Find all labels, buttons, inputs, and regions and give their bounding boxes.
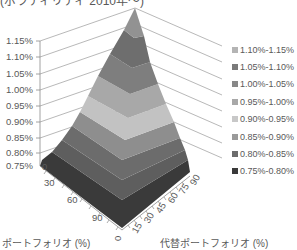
y-tick-90: 90 (92, 212, 103, 223)
z-tick-0.85: 0.85% (6, 132, 33, 143)
legend-item: 0.95%-1.00% (232, 93, 297, 110)
z-tick-0.95: 0.95% (6, 100, 33, 111)
legend-item: 1.05%-1.10% (232, 58, 297, 75)
legend-label: 1.00%-1.05% (240, 79, 294, 89)
legend-label: 0.80%-0.85% (240, 149, 294, 159)
legend-swatch (232, 116, 238, 122)
legend-item: 0.90%-0.95% (232, 111, 297, 128)
z-tick-1.15: 1.15% (6, 35, 33, 46)
y-tick-30: 30 (44, 177, 55, 188)
y-tick-60: 60 (67, 194, 78, 205)
x-tick-45: 45 (153, 200, 168, 215)
x-tick-90: 90 (187, 172, 202, 187)
legend-item: 1.10%-1.15% (232, 41, 297, 58)
z-tick-0.90: 0.90% (6, 116, 33, 127)
legend-swatch (232, 64, 238, 70)
z-axis-labels: 1.15% 1.10% 1.05% 1.00% 0.95% 0.90% 0.85… (6, 35, 33, 171)
z-tick-0.80: 0.80% (6, 147, 33, 158)
legend-label: 0.90%-0.95% (240, 114, 294, 124)
y-tick-0: 0 (42, 161, 47, 172)
axis-title-right: 代替ポートフォリオ (%) (160, 235, 268, 250)
legend: 1.10%-1.15% 1.05%-1.10% 1.00%-1.05% 0.95… (232, 41, 297, 180)
legend-swatch (232, 47, 238, 53)
z-tick-1.10: 1.10% (6, 51, 33, 62)
legend-label: 1.05%-1.10% (240, 62, 294, 72)
legend-item: 0.75%-0.80% (232, 163, 297, 180)
legend-label: 0.75%-0.80% (240, 166, 294, 176)
x-tick-0: 0 (112, 236, 123, 241)
z-tick-0.75: 0.75% (6, 160, 33, 171)
legend-item: 0.85%-0.90% (232, 128, 297, 145)
z-tick-1.00: 1.00% (6, 84, 33, 95)
legend-swatch (232, 151, 238, 157)
axis-title-left: ポートフォリオ (%) (2, 235, 90, 250)
legend-label: 1.10%-1.15% (240, 45, 294, 55)
legend-swatch (232, 99, 238, 105)
z-tick-1.05: 1.05% (6, 68, 33, 79)
legend-swatch (232, 81, 238, 87)
legend-item: 0.80%-0.85% (232, 145, 297, 162)
legend-label: 0.95%-1.00% (240, 97, 294, 107)
legend-swatch (232, 134, 238, 140)
legend-swatch (232, 168, 238, 174)
legend-label: 0.85%-0.90% (240, 132, 294, 142)
legend-item: 1.00%-1.05% (232, 76, 297, 93)
